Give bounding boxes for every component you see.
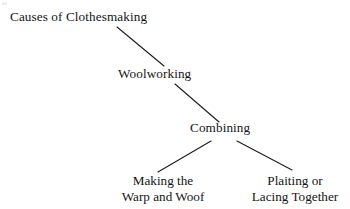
node-making-the-warp-and-woof: Making the Warp and Woof <box>113 173 213 205</box>
leaf-left-line-1: Making the <box>133 173 193 188</box>
leaf-right-line-2: Lacing Together <box>245 189 345 205</box>
leaf-right-line-1: Plaiting or <box>267 173 322 188</box>
edge-combining-to-making-warp-and-woof <box>158 141 211 172</box>
node-plaiting-or-lacing-together: Plaiting or Lacing Together <box>245 173 345 205</box>
node-combining: Combining <box>190 120 250 136</box>
edge-combining-to-plaiting-or-lacing <box>237 141 292 170</box>
node-causes-of-clothesmaking: Causes of Clothesmaking <box>10 9 147 25</box>
leaf-left-line-2: Warp and Woof <box>113 189 213 205</box>
scan-artifact-speck <box>2 2 7 5</box>
hierarchy-diagram: Causes of Clothesmaking Woolworking Comb… <box>0 0 350 209</box>
edge-root-to-woolworking <box>117 27 164 66</box>
node-woolworking: Woolworking <box>118 66 191 82</box>
edge-woolworking-to-combining <box>175 84 219 122</box>
